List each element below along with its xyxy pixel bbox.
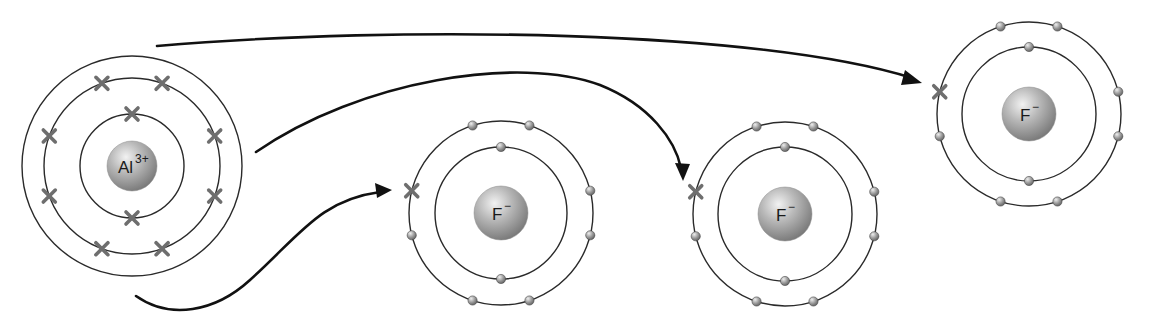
electron-dot: [691, 232, 700, 241]
electron-dot: [586, 186, 595, 195]
transferred-electron-cross-icon: [43, 190, 55, 202]
electron-dot: [752, 297, 761, 306]
ion-f1: F−: [406, 121, 595, 305]
arrowhead-icon: [675, 163, 690, 181]
electron-dot: [1114, 132, 1123, 141]
electron-dot: [468, 121, 477, 130]
diagram-canvas: Al3+F−F−F−: [0, 0, 1150, 335]
electron-dot: [1053, 22, 1062, 31]
electron-dot: [468, 296, 477, 305]
electron-dot: [870, 232, 879, 241]
arrow-path: [157, 34, 912, 78]
ion-symbol: F: [776, 206, 786, 225]
transferred-electron-cross-icon: [690, 186, 702, 198]
electron-dot: [1024, 176, 1033, 185]
electron-dot: [496, 274, 505, 283]
transferred-electron-cross-icon: [209, 130, 221, 142]
electron-dot: [752, 122, 761, 131]
transferred-electron-cross-icon: [43, 130, 55, 142]
ion-f2: F−: [690, 122, 879, 306]
electron-dot: [525, 296, 534, 305]
electron-dot: [996, 22, 1005, 31]
ion-charge: −: [1032, 100, 1039, 114]
electron-transfer-arrow-to-f3: [157, 34, 922, 85]
transferred-electron-cross-icon: [934, 86, 946, 98]
electron-dot: [870, 187, 879, 196]
arrow-path: [136, 192, 380, 310]
electron-dot: [780, 276, 789, 285]
arrow-path: [256, 73, 681, 168]
ion-charge: 3+: [135, 152, 149, 166]
ion-charge: −: [504, 199, 511, 213]
arrows-layer: [136, 34, 922, 310]
arrowhead-icon: [901, 70, 922, 85]
electron-dot: [1024, 42, 1033, 51]
transferred-electron-cross-icon: [96, 243, 108, 255]
ion-charge: −: [788, 200, 795, 214]
electron-dot: [586, 231, 595, 240]
transferred-electron-cross-icon: [156, 243, 168, 255]
arrowhead-icon: [375, 183, 392, 198]
electron-dot: [809, 122, 818, 131]
electron-dot: [996, 197, 1005, 206]
electron-dot: [1053, 197, 1062, 206]
transferred-electron-cross-icon: [156, 77, 168, 89]
transferred-electron-cross-icon: [406, 185, 418, 197]
electron-transfer-arrow-to-f1: [136, 183, 392, 310]
ion-symbol: Al: [118, 158, 133, 177]
electron-dot: [935, 132, 944, 141]
electron-dot: [407, 231, 416, 240]
electron-dot: [780, 142, 789, 151]
ion-symbol: F: [492, 205, 502, 224]
transferred-electron-cross-icon: [209, 190, 221, 202]
ionic-bonding-diagram: Al3+F−F−F−: [0, 0, 1150, 335]
ion-symbol: F: [1020, 106, 1030, 125]
transferred-electron-cross-icon: [96, 77, 108, 89]
electron-dot: [809, 297, 818, 306]
electron-dot: [496, 142, 505, 151]
electron-dot: [1114, 87, 1123, 96]
ion-al: Al3+: [22, 56, 242, 276]
electron-dot: [525, 121, 534, 130]
ions-layer: Al3+F−F−F−: [22, 22, 1123, 306]
ion-f3: F−: [934, 22, 1123, 206]
